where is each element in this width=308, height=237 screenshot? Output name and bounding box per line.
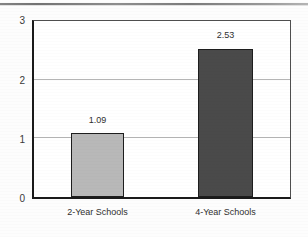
y-axis-tick-label-3: 3 xyxy=(1,16,25,26)
bar-value-label-4-year-schools: 2.53 xyxy=(198,31,253,40)
bar-4-year-schools[interactable] xyxy=(198,49,253,197)
y-axis-tick-label-1: 1 xyxy=(1,135,25,145)
x-axis-category-label-4-year-schools: 4-Year Schools xyxy=(183,208,268,217)
bar-2-year-schools[interactable] xyxy=(71,133,124,197)
y-axis-tick-label-0: 0 xyxy=(1,194,25,204)
scan-artifact-line-secondary xyxy=(0,5,308,6)
plot-area xyxy=(32,20,291,199)
bar-chart-figure: 3 2 1 0 1.09 2.53 2-Year Schools 4-Year … xyxy=(0,0,308,237)
x-axis-category-label-2-year-schools: 2-Year Schools xyxy=(55,208,140,217)
bar-value-label-2-year-schools: 1.09 xyxy=(70,116,125,125)
y-axis-tick-label-2: 2 xyxy=(1,76,25,86)
